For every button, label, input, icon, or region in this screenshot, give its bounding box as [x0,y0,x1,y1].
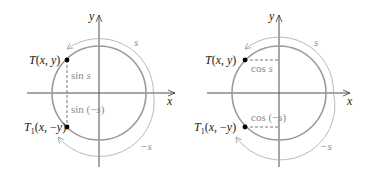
sin-neg-s-label: sin (−s) [71,103,105,116]
left-diagram-sine: y x T(x, y) T1(x, −y) sin s sin (−s) s −… [24,9,175,167]
y-axis-label: y [88,9,95,23]
point-T-label: T(x, y) [29,53,60,67]
point-T1-label: T1(x, −y) [194,120,236,136]
y-axis-label: y [268,9,275,23]
arc-s-label: s [314,36,318,48]
cos-neg-s-label: cos (−s) [251,111,287,124]
x-axis-label: x [346,94,353,108]
arc-s-label: s [134,36,138,48]
point-T1 [243,125,248,130]
arc-negative-s-label: −s [140,140,152,152]
point-T [65,58,70,63]
x-axis-label: x [166,94,173,108]
sin-s-label: sin s [71,69,91,81]
point-T-label: T(x, y) [205,53,236,67]
cos-s-label: cos s [251,62,273,74]
right-diagram-cosine: y x T(x, y) T1(x, −y) cos s cos (−s) s −… [194,9,353,167]
symmetry-diagrams: y x T(x, y) T1(x, −y) sin s sin (−s) s −… [0,0,369,176]
arc-negative-s-label: −s [320,140,332,152]
point-T1-label: T1(x, −y) [24,120,66,136]
point-T [243,58,248,63]
